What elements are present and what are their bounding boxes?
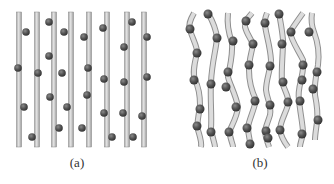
sphere	[45, 52, 53, 60]
sphere	[278, 40, 287, 49]
rod	[35, 12, 40, 147]
sphere	[45, 18, 53, 26]
sphere	[119, 109, 127, 117]
sphere	[296, 97, 305, 106]
sphere	[224, 68, 233, 77]
sphere	[276, 126, 285, 135]
sphere	[20, 103, 28, 111]
rod	[69, 12, 74, 147]
sphere	[204, 10, 213, 19]
sphere	[120, 78, 128, 86]
rod	[87, 12, 92, 147]
sphere	[28, 133, 36, 141]
sphere	[213, 34, 222, 43]
sphere	[143, 33, 151, 41]
rod	[17, 12, 22, 147]
sphere	[58, 69, 66, 77]
sphere	[207, 80, 216, 89]
sphere	[128, 18, 136, 26]
sphere	[207, 128, 216, 137]
sphere	[298, 130, 307, 139]
panel-b-label: (b)	[240, 155, 280, 171]
sphere	[129, 133, 137, 141]
sphere	[298, 76, 307, 85]
sphere	[14, 64, 22, 72]
sphere	[84, 64, 92, 72]
sphere	[232, 103, 241, 112]
sphere	[313, 68, 322, 77]
rod	[228, 13, 238, 147]
sphere	[264, 134, 273, 143]
sphere	[309, 85, 318, 94]
sphere	[287, 28, 296, 37]
sphere	[63, 103, 71, 111]
sphere	[193, 122, 202, 131]
sphere	[243, 124, 252, 133]
sphere	[275, 10, 284, 19]
sphere	[120, 43, 128, 51]
sphere	[100, 109, 108, 117]
sphere	[55, 124, 63, 132]
sphere	[266, 101, 275, 110]
sphere	[246, 140, 255, 149]
sphere	[299, 61, 308, 70]
sphere	[261, 19, 270, 28]
sphere	[190, 76, 199, 85]
sphere	[314, 116, 323, 125]
sphere	[266, 62, 275, 71]
sphere	[46, 93, 54, 101]
sphere	[284, 98, 293, 107]
sphere	[22, 28, 30, 36]
sphere	[108, 133, 116, 141]
sphere	[193, 49, 202, 58]
sphere	[34, 69, 42, 77]
sphere	[83, 91, 91, 99]
sphere	[143, 73, 151, 81]
sphere	[225, 128, 234, 137]
sphere	[80, 33, 88, 41]
sphere	[305, 28, 314, 37]
sphere	[138, 112, 146, 120]
sphere	[245, 61, 254, 70]
sphere	[242, 17, 251, 26]
sphere	[249, 40, 258, 49]
diagram-canvas	[0, 0, 334, 184]
sphere	[222, 83, 231, 92]
sphere	[99, 24, 107, 32]
sphere	[186, 25, 195, 34]
sphere	[100, 75, 108, 83]
sphere	[229, 37, 238, 46]
sphere	[78, 124, 86, 132]
sphere	[196, 105, 205, 114]
sphere	[60, 28, 68, 36]
sphere	[279, 78, 288, 87]
panel-a-label: (a)	[57, 155, 97, 171]
sphere	[251, 97, 260, 106]
